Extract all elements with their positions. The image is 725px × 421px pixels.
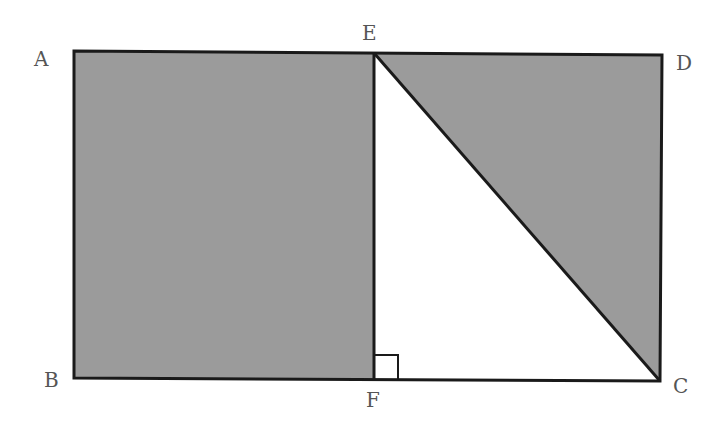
label-c: C [673,374,688,398]
label-e: E [362,21,377,45]
label-b: B [44,368,59,392]
right-angle-mark [374,355,398,379]
label-d: D [676,51,692,75]
geometry-diagram: A E D B F C [0,0,725,421]
shaded-rectangle-abfe [74,51,374,379]
label-f: F [366,388,380,412]
label-a: A [33,47,49,71]
